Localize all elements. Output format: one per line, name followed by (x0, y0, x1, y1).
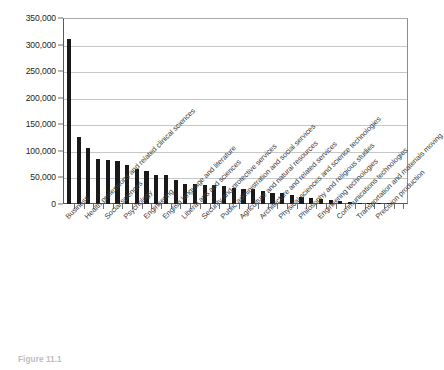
bar (280, 193, 284, 204)
x-tick (258, 204, 259, 209)
x-tick (239, 204, 240, 209)
x-tick (345, 204, 346, 209)
bar (183, 184, 187, 204)
x-tick (210, 204, 211, 209)
x-tick (287, 204, 288, 209)
y-tick-label: 200,000 (26, 93, 56, 103)
y-tick-label: 300,000 (26, 40, 56, 50)
y-tick-label: 100,000 (26, 146, 56, 156)
bar (222, 186, 226, 204)
y-tick-label: 350,000 (26, 13, 56, 23)
figure-caption: Figure 11.1 (18, 354, 62, 364)
x-tick (74, 204, 75, 209)
x-tick (84, 204, 85, 209)
x-tick (403, 204, 404, 209)
bar (135, 169, 139, 204)
bar (241, 189, 245, 204)
bar (86, 148, 90, 204)
x-tick (190, 204, 191, 209)
bar (193, 184, 197, 204)
bar (67, 39, 71, 204)
x-tick (316, 204, 317, 209)
bar (106, 160, 110, 204)
bar (115, 161, 119, 204)
x-tick (336, 204, 337, 209)
x-tick (103, 204, 104, 209)
bar (125, 165, 129, 204)
bar (203, 185, 207, 204)
x-tick (326, 204, 327, 209)
bar (144, 171, 148, 204)
bar (299, 197, 303, 204)
x-axis-ticks (63, 204, 408, 210)
x-tick (306, 204, 307, 209)
x-tick (200, 204, 201, 209)
x-tick (151, 204, 152, 209)
bar-series (63, 18, 408, 204)
x-tick (384, 204, 385, 209)
x-tick (355, 204, 356, 209)
bar (96, 159, 100, 204)
x-tick (229, 204, 230, 209)
y-tick-label: 250,000 (26, 66, 56, 76)
bar (270, 193, 274, 204)
x-tick (365, 204, 366, 209)
x-tick (180, 204, 181, 209)
bar (164, 175, 168, 204)
y-tick-label: 50,000 (30, 172, 56, 182)
x-tick (132, 204, 133, 209)
x-tick (161, 204, 162, 209)
y-tick-label: 150,000 (26, 119, 56, 129)
x-tick (277, 204, 278, 209)
bar (77, 137, 81, 204)
bar (290, 195, 294, 204)
x-tick (171, 204, 172, 209)
x-tick (268, 204, 269, 209)
y-axis: 050,000100,000150,000200,000250,000300,0… (0, 0, 63, 210)
x-tick (113, 204, 114, 209)
x-tick (248, 204, 249, 209)
x-tick (374, 204, 375, 209)
x-tick (93, 204, 94, 209)
bar (154, 175, 158, 204)
y-tick-label: 0 (51, 199, 56, 209)
x-tick (219, 204, 220, 209)
bar (261, 191, 265, 204)
bar (212, 185, 216, 204)
x-tick (394, 204, 395, 209)
bar (232, 188, 236, 204)
bar (251, 189, 255, 204)
bar (174, 180, 178, 204)
x-tick (297, 204, 298, 209)
x-tick (142, 204, 143, 209)
x-tick (122, 204, 123, 209)
